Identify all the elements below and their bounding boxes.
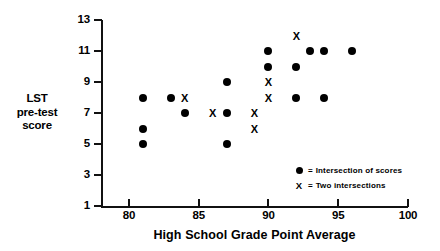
y-tick-9 [94, 81, 102, 83]
x-tick-100 [407, 199, 409, 207]
x-tick-90 [267, 199, 269, 207]
data-point-dot-94-8 [320, 94, 328, 102]
data-point-x-90-8: X [262, 92, 274, 103]
y-tick-label-1: 1 [68, 199, 90, 211]
x-tick-label-80: 80 [111, 209, 147, 221]
y-axis-title: LST pre-test score [6, 92, 68, 133]
y-axis-title-line-3: score [6, 119, 68, 133]
data-point-dot-90-11 [264, 47, 272, 55]
dot-glyph [296, 167, 303, 174]
y-tick-label-13: 13 [68, 13, 90, 25]
x-tick-80 [128, 199, 130, 207]
data-point-dot-84-7 [181, 109, 189, 117]
x-tick-label-90: 90 [250, 209, 286, 221]
legend-equals-sign: = [308, 181, 313, 190]
data-point-x-92-12: X [290, 30, 302, 41]
legend-equals-sign: = [308, 166, 313, 175]
legend-dot-icon [292, 167, 306, 174]
x-tick-label-95: 95 [320, 209, 356, 221]
data-point-dot-92-10 [292, 63, 300, 71]
legend-x-icon: X [292, 181, 306, 191]
x-axis-title: High School Grade Point Average [101, 228, 408, 242]
data-point-x-86-7: X [207, 108, 219, 119]
x-tick-label-100: 100 [390, 209, 426, 221]
data-point-dot-96-11 [348, 47, 356, 55]
data-point-dot-83-8 [167, 94, 175, 102]
data-point-dot-87-5 [223, 140, 231, 148]
y-tick-1 [94, 205, 102, 207]
y-tick-label-5: 5 [68, 137, 90, 149]
data-point-dot-93-11 [306, 47, 314, 55]
legend-item-1: =Intersection of scores [292, 163, 432, 178]
data-point-x-84-8: X [179, 92, 191, 103]
legend-label: Intersection of scores [316, 166, 402, 175]
data-point-x-90-9: X [262, 77, 274, 88]
data-point-dot-92-8 [292, 94, 300, 102]
y-axis-line [101, 20, 103, 208]
data-point-dot-81-8 [139, 94, 147, 102]
y-tick-label-9: 9 [68, 75, 90, 87]
y-tick-5 [94, 143, 102, 145]
y-axis-title-line-2: pre-test [6, 106, 68, 120]
chart-legend: =Intersection of scoresX=Two intersectio… [292, 163, 432, 193]
data-point-dot-90-10 [264, 63, 272, 71]
y-tick-label-3: 3 [68, 168, 90, 180]
data-point-dot-87-7 [223, 109, 231, 117]
legend-item-2: X=Two intersections [292, 178, 432, 193]
y-tick-11 [94, 50, 102, 52]
data-point-dot-94-11 [320, 47, 328, 55]
data-point-dot-81-6 [139, 125, 147, 133]
legend-label: Two intersections [316, 181, 386, 190]
y-tick-7 [94, 112, 102, 114]
x-tick-85 [198, 199, 200, 207]
data-point-x-89-6: X [249, 123, 261, 134]
data-point-dot-87-9 [223, 78, 231, 86]
y-tick-13 [94, 19, 102, 21]
x-tick-95 [337, 199, 339, 207]
x-axis-line [101, 206, 408, 208]
x-tick-label-85: 85 [181, 209, 217, 221]
data-point-dot-81-5 [139, 140, 147, 148]
y-tick-label-7: 7 [68, 106, 90, 118]
scatter-chart: 135791113 80859095100 LST pre-test score… [0, 0, 440, 251]
y-tick-3 [94, 174, 102, 176]
x-glyph: X [296, 181, 302, 191]
data-point-x-89-7: X [249, 108, 261, 119]
y-axis-title-line-1: LST [6, 92, 68, 106]
y-tick-label-11: 11 [68, 44, 90, 56]
